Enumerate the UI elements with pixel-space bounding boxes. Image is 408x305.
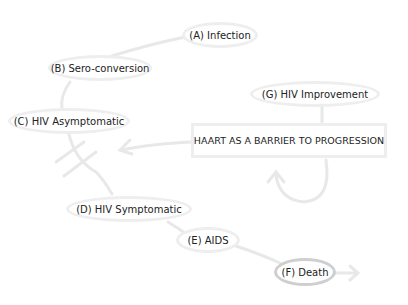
node-hiv-symptomatic: (D) HIV Symptomatic — [66, 196, 192, 222]
link-b-c — [62, 82, 70, 108]
link-e-f — [236, 246, 280, 263]
node-death: (F) Death — [274, 258, 336, 286]
link-a-b — [112, 36, 190, 56]
barrier-line-2 — [64, 152, 96, 176]
node-sero-conversion: (B) Sero-conversion — [48, 55, 152, 81]
node-hiv-improvement: (G) HIV Improvement — [250, 81, 380, 107]
node-aids: (E) AIDS — [176, 227, 240, 253]
node-infection: (A) Infection — [182, 22, 258, 48]
link-haart-barrier — [122, 142, 192, 150]
node-hiv-asymptomatic: (C) HIV Asymptomatic — [8, 108, 130, 134]
link-c-d — [68, 130, 112, 194]
hiv-progression-diagram: (A) Infection (B) Sero-conversion (C) HI… — [0, 0, 408, 305]
node-haart-barrier: HAART AS A BARRIER TO PROGRESSION — [191, 123, 387, 158]
